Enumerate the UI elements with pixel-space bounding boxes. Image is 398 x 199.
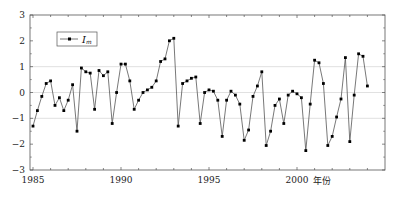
data-point-marker [150, 86, 153, 89]
data-point-marker [67, 99, 70, 102]
data-point-marker [340, 98, 343, 101]
data-point-marker [318, 61, 321, 64]
data-point-marker [45, 82, 48, 85]
data-point-marker [357, 52, 360, 55]
data-point-marker [177, 125, 180, 128]
data-point-marker [181, 82, 184, 85]
data-point-marker [208, 89, 211, 92]
data-point-marker [194, 76, 197, 79]
data-point-marker [300, 96, 303, 99]
data-point-marker [234, 94, 237, 97]
data-point-marker [80, 67, 83, 70]
data-point-marker [32, 125, 35, 128]
legend: Im [57, 32, 97, 46]
data-point-marker [243, 139, 246, 142]
data-point-marker [172, 37, 175, 40]
data-point-marker [133, 108, 136, 111]
data-point-marker [58, 96, 61, 99]
x-tick-label: 2000 [286, 175, 309, 185]
data-point-marker [313, 59, 316, 62]
data-point-marker [190, 77, 193, 80]
data-point-marker [278, 98, 281, 101]
data-point-marker [274, 104, 277, 107]
data-point-marker [49, 80, 52, 83]
x-tick-label: 1995 [198, 175, 221, 185]
grid-lines [30, 67, 385, 119]
data-point-marker [331, 135, 334, 138]
data-point-marker [84, 70, 87, 73]
data-point-marker [362, 55, 365, 58]
data-point-marker [309, 103, 312, 106]
data-point-marker [54, 104, 57, 107]
data-point-marker [230, 90, 233, 93]
data-point-marker [353, 94, 356, 97]
series-line [33, 38, 367, 150]
data-point-marker [199, 122, 202, 125]
data-point-marker [225, 99, 228, 102]
data-point-marker [282, 122, 285, 125]
data-point-marker [335, 116, 338, 119]
y-tick-label: 0 [19, 88, 25, 98]
data-point-marker [71, 83, 74, 86]
data-point-marker [269, 130, 272, 133]
y-tick-label: −3 [12, 165, 26, 175]
data-point-marker [366, 85, 369, 88]
data-point-marker [221, 135, 224, 138]
data-point-marker [76, 130, 79, 133]
data-point-marker [40, 95, 43, 98]
data-point-marker [93, 108, 96, 111]
data-point-marker [216, 99, 219, 102]
data-point-marker [36, 109, 39, 112]
y-tick-label: 1 [19, 62, 25, 72]
data-point-marker [247, 129, 250, 132]
data-point-marker [124, 63, 127, 66]
x-tick-label: 1985 [22, 175, 45, 185]
data-point-marker [146, 89, 149, 92]
data-point-marker [326, 144, 329, 147]
data-point-marker [89, 72, 92, 75]
data-point-marker [344, 56, 347, 59]
data-point-marker [115, 91, 118, 94]
data-point-marker [155, 80, 158, 83]
data-point-marker [265, 144, 268, 147]
y-tick-label: 2 [19, 36, 25, 46]
data-point-marker [168, 39, 171, 42]
data-point-marker [128, 80, 131, 83]
x-tick-label: 1990 [110, 175, 133, 185]
data-point-marker [348, 140, 351, 143]
y-tick-label: −2 [12, 139, 25, 149]
data-point-marker [120, 63, 123, 66]
data-point-marker [142, 91, 145, 94]
data-point-marker [287, 94, 290, 97]
data-point-marker [164, 58, 167, 61]
data-point-marker [260, 70, 263, 73]
data-point-marker [291, 90, 294, 93]
data-point-marker [296, 92, 299, 95]
y-tick-label: 3 [19, 10, 25, 20]
y-tick-label: −1 [12, 113, 25, 123]
data-point-marker [252, 95, 255, 98]
data-point-marker [238, 103, 241, 106]
data-point-marker [256, 85, 259, 88]
data-point-marker [212, 90, 215, 93]
data-point-marker [106, 70, 109, 73]
data-point-marker [159, 60, 162, 63]
series-im [32, 37, 369, 152]
data-point-marker [186, 80, 189, 83]
data-point-marker [322, 82, 325, 85]
data-point-marker [137, 99, 140, 102]
data-point-marker [304, 149, 307, 152]
data-point-marker [203, 91, 206, 94]
data-point-marker [98, 69, 101, 72]
x-axis-unit-label: 年份 [313, 175, 331, 186]
line-chart: −3−2−10123 1985199019952000 年份 Im [0, 0, 398, 199]
data-point-marker [62, 109, 65, 112]
data-point-marker [102, 74, 105, 77]
data-point-marker [111, 122, 114, 125]
legend-marker-icon [68, 38, 71, 41]
